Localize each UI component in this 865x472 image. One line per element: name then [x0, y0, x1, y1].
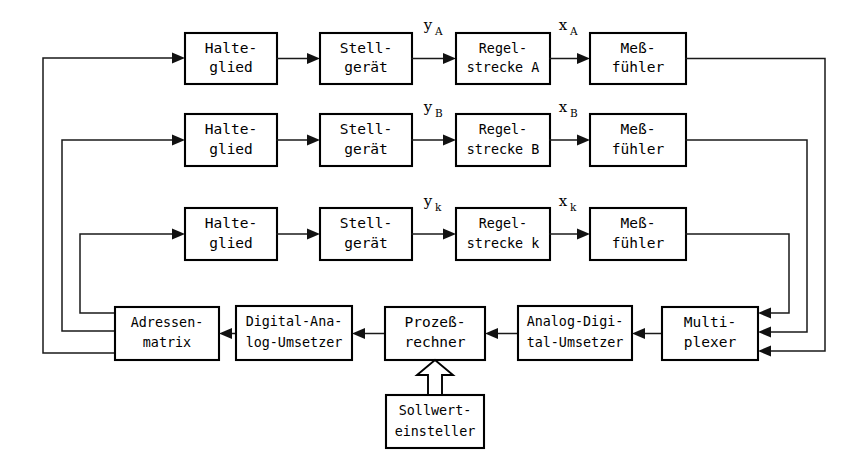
label-halteglied-a-line1: Halte-	[205, 40, 257, 56]
label-halteglied-b-line1: Halte-	[205, 121, 257, 137]
block-diagram: Halte- glied Stell- gerät y A Regel- str…	[0, 0, 865, 472]
label-halteglied-a-line2: glied	[209, 59, 253, 75]
label-adressenmatrix-line1: Adressen-	[131, 315, 204, 330]
row-k-group: Halte- glied Stell- gerät y k Regel- str…	[80, 192, 789, 319]
arrowhead-halteglied-b-in	[172, 135, 185, 146]
arrowhead-da-umsetzer-in	[352, 328, 365, 339]
bottom-chain-group: Adressen- matrix Digital-Ana- log-Umsetz…	[115, 306, 758, 448]
arrowhead-multiplexer-in-a	[758, 346, 771, 357]
arrowhead-stellgeraet-k-in	[307, 229, 320, 240]
label-adressenmatrix-line2: matrix	[143, 335, 191, 350]
label-regelstrecke-a-line1: Regel-	[479, 41, 527, 56]
label-messfuehler-b-line1: Meß-	[621, 121, 656, 137]
signal-label-xk: x k	[559, 192, 577, 213]
label-stellgeraet-k-line1: Stell-	[340, 215, 392, 231]
label-messfuehler-b-line2: fühler	[612, 141, 665, 157]
arrowhead-prozessrechner-in	[485, 328, 498, 339]
signal-label-xa: x A	[559, 16, 578, 37]
label-regelstrecke-b-line2: strecke B	[467, 142, 540, 157]
label-stellgeraet-b-line1: Stell-	[340, 121, 392, 137]
label-stellgeraet-k-line2: gerät	[344, 235, 388, 251]
label-multiplexer-line1: Multi-	[684, 314, 736, 330]
label-messfuehler-a-line1: Meß-	[621, 40, 656, 56]
signal-xa-sub: A	[569, 25, 578, 37]
signal-label-yb: y B	[423, 98, 443, 119]
label-messfuehler-a-line2: fühler	[612, 59, 665, 75]
label-ad-umsetzer-line1: Analog-Digi-	[527, 314, 624, 329]
row-a-group: Halte- glied Stell- gerät y A Regel- str…	[43, 16, 825, 357]
arrowhead-halteglied-k-in	[172, 229, 185, 240]
label-regelstrecke-a-line2: strecke A	[467, 60, 540, 75]
arrowhead-stellgeraet-a-in	[307, 53, 320, 64]
label-halteglied-k-line2: glied	[209, 235, 253, 251]
diagram-canvas: Halte- glied Stell- gerät y A Regel- str…	[0, 0, 865, 472]
hollow-arrow-sollwert-to-prozessrechner	[417, 360, 453, 395]
signal-yk-base: y	[423, 192, 433, 210]
wire-messfuehler-k-to-multiplexer	[686, 234, 789, 313]
label-sollwerteinsteller-line1: Sollwert-	[399, 403, 472, 418]
label-multiplexer-line2: plexer	[684, 334, 737, 350]
signal-xa-base: x	[559, 16, 568, 34]
arrowhead-multiplexer-in-b	[758, 327, 771, 338]
arrowhead-messfuehler-a-in	[577, 53, 590, 64]
label-stellgeraet-a-line2: gerät	[344, 59, 388, 75]
label-da-umsetzer-line1: Digital-Ana-	[246, 314, 343, 329]
signal-xb-base: x	[559, 98, 568, 116]
label-prozessrechner-line1: Prozeß-	[404, 314, 465, 330]
label-halteglied-k-line1: Halte-	[205, 215, 257, 231]
label-regelstrecke-k-line1: Regel-	[479, 216, 527, 231]
signal-ya-base: y	[423, 16, 433, 34]
signal-yb-sub: B	[435, 107, 443, 119]
signal-label-yk: y k	[423, 192, 442, 213]
signal-xk-base: x	[559, 192, 568, 210]
label-regelstrecke-k-line2: strecke k	[467, 236, 540, 251]
label-messfuehler-k-line2: fühler	[612, 235, 665, 251]
label-sollwerteinsteller-line2: einsteller	[395, 424, 476, 439]
signal-label-ya: y A	[423, 16, 443, 37]
label-messfuehler-k-line1: Meß-	[621, 215, 656, 231]
label-stellgeraet-b-line2: gerät	[344, 141, 388, 157]
arrowhead-messfuehler-k-in	[577, 229, 590, 240]
row-b-group: Halte- glied Stell- gerät y B Regel- str…	[62, 98, 807, 338]
arrowhead-stellgeraet-b-in	[307, 135, 320, 146]
signal-xk-sub: k	[570, 201, 577, 213]
arrowhead-messfuehler-b-in	[577, 135, 590, 146]
signal-label-xb: x B	[559, 98, 578, 119]
arrowhead-halteglied-a-in	[172, 53, 185, 64]
signal-yb-base: y	[423, 98, 433, 116]
arrowhead-regelstrecke-a-in	[443, 53, 456, 64]
arrowhead-multiplexer-in-k	[758, 308, 771, 319]
signal-yk-sub: k	[435, 201, 442, 213]
signal-ya-sub: A	[434, 25, 443, 37]
label-stellgeraet-a-line1: Stell-	[340, 40, 392, 56]
arrowhead-regelstrecke-b-in	[443, 135, 456, 146]
signal-xb-sub: B	[570, 107, 578, 119]
label-halteglied-b-line2: glied	[209, 141, 253, 157]
arrowhead-regelstrecke-k-in	[443, 229, 456, 240]
wire-adressenmatrix-to-halteglied-k	[80, 234, 178, 313]
label-da-umsetzer-line2: log-Umsetzer	[246, 335, 343, 350]
arrowhead-ad-umsetzer-in	[632, 328, 645, 339]
label-prozessrechner-line2: rechner	[404, 334, 465, 350]
label-regelstrecke-b-line1: Regel-	[479, 122, 527, 137]
arrowhead-adressenmatrix-in	[219, 328, 232, 339]
label-ad-umsetzer-line2: tal-Umsetzer	[527, 335, 624, 350]
